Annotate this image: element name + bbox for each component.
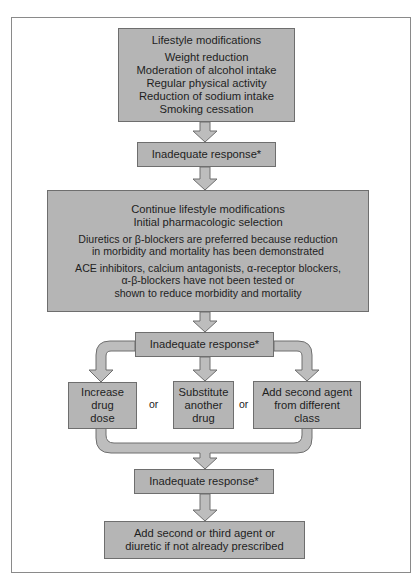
or-label: or — [239, 398, 248, 410]
option-line: Add second agent — [262, 386, 352, 399]
pharmacologic-line: shown to reduce morbidity and mortality — [114, 287, 301, 299]
lifestyle-item: Reduction of sodium intake — [139, 90, 274, 103]
down-arrow-icon — [193, 167, 217, 190]
lifestyle-item: Regular physical activity — [146, 77, 266, 90]
lifestyle-item: Smoking cessation — [160, 103, 254, 116]
option-line: Increase — [81, 386, 124, 399]
down-arrow-icon — [193, 312, 217, 332]
pharmacologic-line: ACE inhibitors, calcium antagonists, α-r… — [75, 262, 341, 274]
inadequate-response-box-3: Inadequate response* — [134, 469, 274, 494]
option-line: drug — [192, 412, 214, 425]
down-arrow-icon — [193, 122, 217, 142]
option-line: from different — [274, 399, 340, 412]
inadequate-response-box-1: Inadequate response* — [137, 142, 276, 167]
final-line: diuretic if not already prescribed — [125, 540, 284, 553]
pharmacologic-line: Diuretics or β-blockers are preferred be… — [78, 233, 337, 245]
pharmacologic-selection-box: Continue lifestyle modifications Initial… — [47, 190, 369, 312]
inadequate-response-box-2: Inadequate response* — [135, 332, 274, 357]
inadequate-response-label: Inadequate response* — [152, 148, 261, 161]
option-line: dose — [90, 412, 114, 425]
branch-right-arrow-icon — [274, 341, 319, 381]
final-line: Add second or third agent or — [134, 527, 275, 540]
pharmacologic-line: in morbidity and mortality has been demo… — [92, 245, 324, 257]
option-add-second-agent-box: Add second agent from different class — [253, 381, 361, 429]
option-substitute-drug-box: Substitute another drug — [173, 381, 234, 429]
final-step-box: Add second or third agent or diuretic if… — [104, 521, 305, 559]
lifestyle-modifications-box: Lifestyle modifications Weight reduction… — [118, 28, 295, 122]
inadequate-response-label: Inadequate response* — [150, 338, 259, 351]
option-line: another — [185, 399, 223, 412]
pharmacologic-line: Continue lifestyle modifications — [131, 203, 285, 216]
option-increase-dose-box: Increase drug dose — [68, 382, 137, 429]
or-label: or — [149, 398, 158, 410]
merge-connector-icon — [96, 428, 312, 469]
inadequate-response-label: Inadequate response* — [149, 475, 258, 488]
option-line: Substitute — [179, 386, 229, 399]
pharmacologic-line: α-β-blockers have not been tested or — [122, 274, 295, 286]
branch-left-arrow-icon — [89, 341, 135, 382]
down-arrow-icon — [193, 357, 217, 381]
option-line: class — [294, 412, 320, 425]
pharmacologic-line: Initial pharmacologic selection — [133, 216, 282, 229]
lifestyle-item: Weight reduction — [165, 51, 249, 64]
down-arrow-icon — [193, 494, 217, 521]
lifestyle-title: Lifestyle modifications — [152, 34, 261, 47]
option-line: drug — [91, 399, 113, 412]
lifestyle-item: Moderation of alcohol intake — [137, 64, 277, 77]
